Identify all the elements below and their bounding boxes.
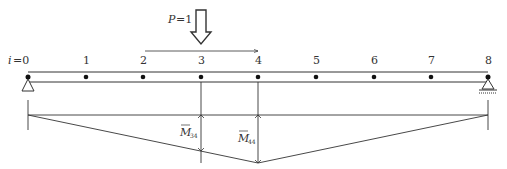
node-label-0: =0 (13, 54, 29, 67)
load-arrow-icon (191, 10, 211, 44)
moment-diagram (28, 82, 488, 163)
load-symbol: P (167, 13, 176, 26)
node-labels: i =0 1 2 3 4 5 6 7 8 (8, 54, 492, 67)
influence-moment-diagram: P =1 i =0 1 2 3 4 5 6 7 8 (0, 0, 507, 169)
node-dot (199, 75, 204, 80)
roller-support-icon (479, 79, 497, 93)
beam-nodes (26, 75, 491, 80)
node-label-6: 6 (371, 54, 378, 67)
node-label-7: 7 (428, 54, 435, 67)
node-label-5: 5 (313, 54, 320, 67)
node-dot (256, 75, 261, 80)
pin-support-icon (22, 79, 34, 91)
m34-subscript: 34 (190, 132, 198, 139)
load-value: =1 (176, 13, 192, 26)
ordinate-label-m44: M 44 (237, 131, 256, 145)
node-dot (314, 75, 319, 80)
node-dot (84, 75, 89, 80)
ordinate-label-m34: M 34 (179, 125, 198, 139)
node-dot (141, 75, 146, 80)
m44-subscript: 44 (248, 138, 256, 145)
node-label-2: 2 (140, 54, 147, 67)
node-label-8: 8 (485, 54, 492, 67)
node-label-1: 1 (83, 54, 90, 67)
node-label-var: i (8, 54, 12, 67)
node-dot (372, 75, 377, 80)
node-label-4: 4 (255, 54, 262, 67)
node-label-3: 3 (198, 54, 205, 67)
node-dot (429, 75, 434, 80)
load-label: P =1 (167, 13, 192, 26)
